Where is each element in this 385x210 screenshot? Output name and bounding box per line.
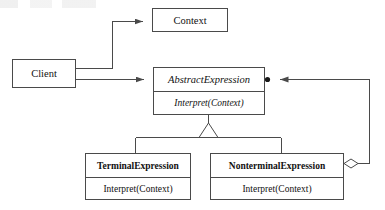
- class-name-terminal-expression: TerminalExpression: [86, 154, 190, 177]
- class-box-abstract-expression[interactable]: AbstractExpression Interpret(Context): [153, 67, 265, 115]
- class-name-context: Context: [153, 9, 227, 31]
- class-name-abstract-expression: AbstractExpression: [154, 68, 264, 91]
- class-box-terminal-expression[interactable]: TerminalExpression Interpret(Context): [85, 153, 191, 200]
- class-operation-terminal-expression: Interpret(Context): [86, 177, 190, 199]
- class-box-client[interactable]: Client: [12, 59, 76, 88]
- aggregation-diamond-icon: [344, 159, 358, 168]
- class-name-client: Client: [13, 60, 75, 87]
- class-operation-abstract-expression: Interpret(Context): [154, 91, 264, 114]
- connector-aggregation: [280, 80, 370, 164]
- connector-client-to-context: [76, 22, 143, 69]
- association-end-dot-icon: [265, 77, 270, 82]
- class-operation-nonterminal-expression: Interpret(Context): [211, 177, 343, 199]
- uml-diagram-canvas: Context Client AbstractExpression Interp…: [0, 0, 385, 210]
- class-box-context[interactable]: Context: [152, 8, 228, 32]
- class-name-nonterminal-expression: NonterminalExpression: [211, 154, 343, 177]
- class-box-nonterminal-expression[interactable]: NonterminalExpression Interpret(Context): [210, 153, 344, 200]
- generalization-triangle-icon: [199, 123, 218, 138]
